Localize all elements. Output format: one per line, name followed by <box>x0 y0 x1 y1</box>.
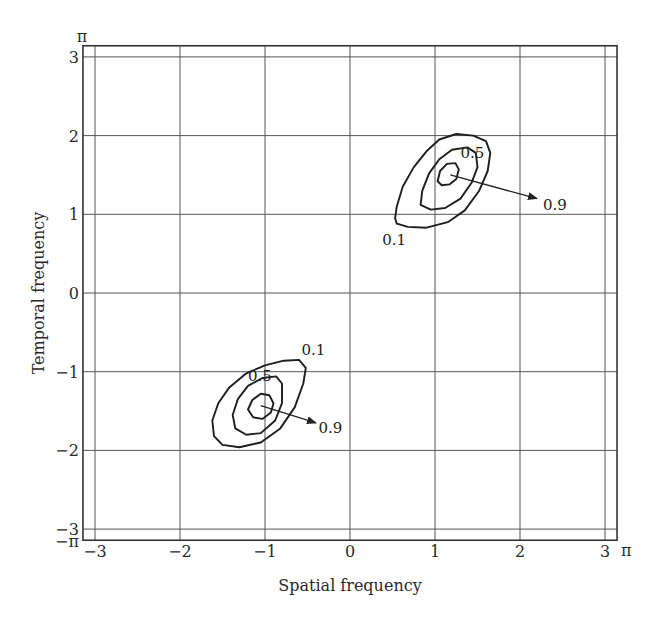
contour-label: 0.1 <box>302 341 326 359</box>
y-tick-label: −3 <box>55 520 79 539</box>
y-tick-label: −1 <box>55 363 79 382</box>
contour-label: 0.1 <box>382 231 406 249</box>
y-tick-label: 3 <box>69 48 79 67</box>
x-tick-label: 2 <box>515 542 525 561</box>
x-tick-label: 1 <box>430 542 440 561</box>
tick-labels: π −π π −3−2−10123−3−2−10123 <box>55 27 632 561</box>
y-tick-label: 0 <box>69 284 79 303</box>
y-axis-max-pi-label: π <box>77 27 88 46</box>
y-axis-title: Temporal frequency <box>29 212 48 375</box>
x-tick-label: −2 <box>168 542 192 561</box>
contour-level-0-9 <box>438 163 459 185</box>
x-axis-max-pi-label: π <box>621 541 632 560</box>
contour-chart: π −π π −3−2−10123−3−2−10123 0.10.50.90.1… <box>0 0 657 631</box>
y-tick-label: 1 <box>69 205 79 224</box>
contour-group-upper-right: 0.10.50.9 <box>382 134 567 249</box>
contour-level-0-5 <box>233 376 282 434</box>
x-axis-title: Spatial frequency <box>278 576 421 595</box>
contour-label: 0.5 <box>248 367 272 385</box>
x-tick-label: −1 <box>253 542 277 561</box>
y-tick-label: −2 <box>55 441 79 460</box>
contour-label: 0.5 <box>461 144 485 162</box>
grid-layer <box>83 46 617 540</box>
contour-group-lower-left: 0.10.50.9 <box>212 341 342 447</box>
x-tick-label: 3 <box>600 542 610 561</box>
y-tick-label: 2 <box>69 127 79 146</box>
contour-level-0-9 <box>248 394 274 419</box>
contour-label: 0.9 <box>543 196 567 214</box>
x-tick-label: −3 <box>83 542 107 561</box>
contour-label: 0.9 <box>319 419 343 437</box>
x-tick-label: 0 <box>345 542 355 561</box>
